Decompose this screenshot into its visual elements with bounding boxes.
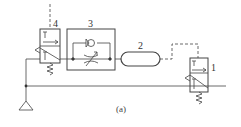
label-tank-2: 2	[138, 40, 143, 51]
exhaust-triangle	[19, 101, 33, 110]
caption: (a)	[116, 104, 126, 114]
pneumatic-circuit-diagram: 4 3 2 1 (a)	[0, 0, 241, 127]
valve-4	[35, 29, 60, 75]
tank-2	[121, 52, 160, 66]
junction-dot	[72, 58, 75, 61]
junction-dot	[25, 85, 28, 88]
label-valve-4: 4	[53, 18, 58, 29]
junction-dot	[109, 58, 112, 61]
flow-control-valve-3	[67, 29, 115, 70]
label-valve-1: 1	[211, 62, 216, 73]
pilot-line-valve-1	[160, 44, 198, 59]
label-flow-control-3: 3	[88, 18, 93, 29]
valve-1	[185, 58, 208, 104]
